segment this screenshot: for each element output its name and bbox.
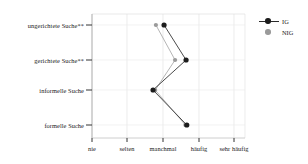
y-tick-label-formelle-suche: formelle Suche	[44, 122, 84, 129]
x-axis-ticks	[92, 138, 234, 142]
legend-key-nig	[258, 27, 280, 38]
series-points-nig	[153, 23, 187, 127]
data-point-nig	[173, 58, 177, 62]
x-tick-label-nie: nie	[72, 145, 112, 152]
series-line-nig	[155, 25, 185, 125]
x-tick-label-manchmal: manchmal	[143, 145, 183, 152]
y-axis-ticks	[86, 25, 92, 125]
chart-figure: ungerichtete Suche** gerichtete Suche** …	[0, 0, 308, 164]
data-point-ig	[161, 22, 166, 27]
legend-item-ig[interactable]: IG	[258, 16, 306, 27]
y-tick-label-ungerichtete-suche: ungerichtete Suche**	[28, 22, 84, 29]
x-tick-label-sehr-haeufig: sehr häufig	[214, 145, 254, 152]
chart-legend: IG NIG	[258, 16, 306, 38]
legend-label-nig: NIG	[280, 29, 293, 36]
y-tick-label-gerichtete-suche: gerichtete Suche**	[34, 57, 84, 64]
x-tick-label-selten: selten	[107, 145, 147, 152]
legend-key-ig	[258, 16, 280, 27]
legend-marker-nig	[265, 29, 271, 35]
y-tick-label-informelle-suche: informelle Suche	[39, 87, 84, 94]
data-point-ig	[150, 87, 155, 92]
legend-marker-ig	[265, 18, 271, 24]
data-point-nig	[154, 23, 158, 27]
data-point-ig	[184, 122, 189, 127]
x-tick-label-haeufig: häufig	[179, 145, 219, 152]
legend-label-ig: IG	[280, 18, 289, 25]
legend-item-nig[interactable]: NIG	[258, 27, 306, 38]
data-point-ig	[183, 57, 188, 62]
series-line-ig	[153, 25, 187, 125]
